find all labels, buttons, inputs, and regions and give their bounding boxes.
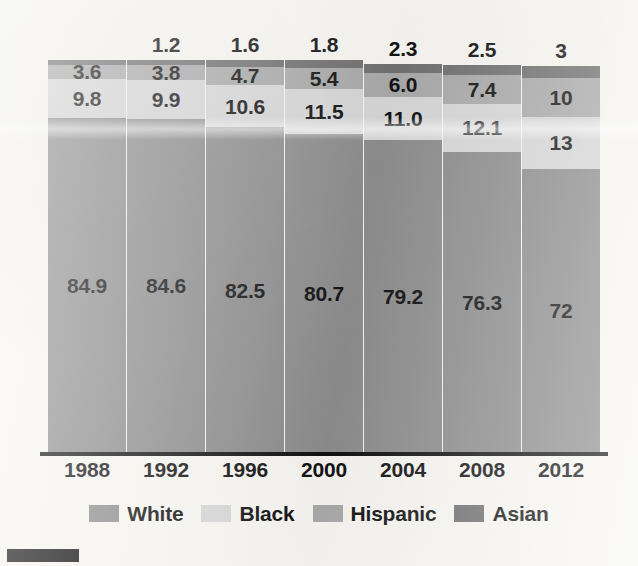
bar-segment-value: 6.0: [389, 74, 418, 95]
bar-segment-white: 82.5: [206, 127, 284, 453]
bar-segment-hispanic: 3.6: [48, 65, 126, 79]
x-tick-1996: 1996: [206, 458, 284, 482]
x-tick-2008: 2008: [443, 458, 521, 482]
bar-segment-white: 80.7: [285, 134, 363, 453]
legend-label: Black: [239, 503, 294, 524]
bar-2000: 1.85.411.580.7: [285, 60, 363, 453]
bar-segment-value: 82.5: [225, 280, 265, 301]
x-tick-1992: 1992: [127, 458, 205, 482]
bar-segment-asian: [443, 65, 521, 75]
bar-segment-value: 9.8: [73, 88, 102, 109]
bar-segment-value: 10: [550, 87, 573, 108]
bar-segment-value: 79.2: [383, 286, 423, 307]
bar-segment-value: 12.1: [462, 117, 502, 138]
bar-segment-value: 4.7: [231, 65, 260, 86]
bar-top-label-asian: 1.6: [206, 34, 284, 55]
x-tick-2012: 2012: [522, 458, 600, 482]
bar-segment-white: 84.9: [48, 118, 126, 453]
legend-item-white[interactable]: White: [89, 503, 183, 524]
bar-segment-white: 84.6: [127, 119, 205, 453]
bar-segment-black: 12.1: [443, 104, 521, 152]
chart-legend: WhiteBlackHispanicAsian: [0, 503, 638, 524]
bar-top-label-asian: 1.2: [127, 34, 205, 55]
page-corner-mark: [7, 549, 79, 562]
legend-swatch-asian: [454, 505, 484, 522]
bar-1992: 1.23.89.984.6: [127, 60, 205, 453]
bar-top-label-asian: 2.5: [443, 39, 521, 60]
bar-segment-value: 72: [550, 300, 573, 321]
bar-segment-hispanic: 7.4: [443, 75, 521, 104]
bar-segment-hispanic: 6.0: [364, 73, 442, 97]
bar-2004: 2.36.011.079.2: [364, 64, 442, 453]
bar-segment-black: 10.6: [206, 85, 284, 127]
bar-segment-value: 84.9: [67, 275, 107, 296]
legend-label: Hispanic: [351, 503, 437, 524]
x-tick-2000: 2000: [285, 458, 363, 482]
bar-segment-value: 13: [550, 132, 573, 153]
legend-item-hispanic[interactable]: Hispanic: [313, 503, 437, 524]
bar-2008: 2.57.412.176.3: [443, 65, 521, 453]
bar-top-label-asian: 2.3: [364, 38, 442, 59]
bar-segment-hispanic: 10: [522, 78, 600, 118]
legend-swatch-hispanic: [313, 505, 343, 522]
bar-segment-asian: [364, 64, 442, 73]
legend-label: Asian: [492, 503, 548, 524]
bar-segment-white: 76.3: [443, 152, 521, 453]
bar-segment-value: 9.9: [152, 89, 181, 110]
bar-segment-black: 11.5: [285, 89, 363, 134]
bar-segment-black: 9.9: [127, 80, 205, 119]
bar-2012: 3101372: [522, 66, 600, 453]
bar-segment-hispanic: 3.8: [127, 65, 205, 80]
bar-top-label-asian: 1.8: [285, 34, 363, 55]
bar-segment-hispanic: 4.7: [206, 67, 284, 86]
legend-swatch-white: [89, 505, 119, 522]
bar-segment-value: 76.3: [462, 292, 502, 313]
bar-segment-black: 11.0: [364, 97, 442, 140]
bar-segment-value: 7.4: [468, 79, 497, 100]
bar-top-label-asian: 3: [522, 40, 600, 61]
bar-segment-hispanic: 5.4: [285, 68, 363, 89]
x-axis-line: [40, 452, 608, 456]
bar-segment-white: 79.2: [364, 140, 442, 453]
bar-segment-value: 84.6: [146, 275, 186, 296]
bar-segment-value: 11.5: [305, 101, 344, 122]
bar-1988: 3.69.884.9: [48, 60, 126, 453]
x-tick-2004: 2004: [364, 458, 442, 482]
bar-segment-white: 72: [522, 169, 600, 453]
bar-segment-value: 11.0: [384, 108, 423, 129]
bar-segment-black: 9.8: [48, 79, 126, 118]
legend-swatch-black: [201, 505, 231, 522]
legend-label: White: [127, 503, 183, 524]
bar-segment-value: 80.7: [304, 283, 344, 304]
bar-segment-value: 5.4: [310, 68, 339, 89]
bar-segment-black: 13: [522, 117, 600, 168]
legend-item-asian[interactable]: Asian: [454, 503, 548, 524]
legend-item-black[interactable]: Black: [201, 503, 294, 524]
bar-segment-asian: [522, 66, 600, 78]
bar-segment-value: 10.6: [225, 96, 265, 117]
x-tick-1988: 1988: [48, 458, 126, 482]
stacked-bar-chart: 3.69.884.91.23.89.984.61.64.710.682.51.8…: [0, 0, 638, 566]
bar-1996: 1.64.710.682.5: [206, 60, 284, 453]
